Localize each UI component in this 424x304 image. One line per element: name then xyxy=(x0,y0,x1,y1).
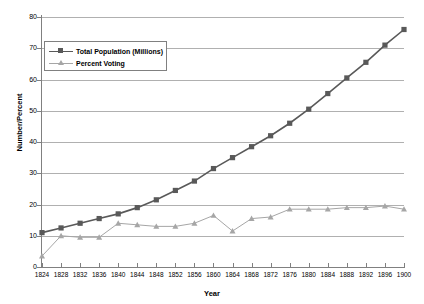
y-axis-title: Number/Percent xyxy=(15,78,24,168)
x-axis-tick-mark xyxy=(404,263,405,268)
x-axis-tick-mark xyxy=(309,263,310,268)
x-axis-tick-mark xyxy=(290,263,291,268)
legend-item-total-population: Total Population (Millions) xyxy=(49,45,162,57)
x-axis-tick-label: 1900 xyxy=(392,271,416,279)
x-axis-title: Year xyxy=(0,289,424,298)
x-axis-tick-labels: 1824182818321836184018441848185218561860… xyxy=(0,271,424,285)
x-axis-tick-mark xyxy=(385,263,386,268)
series-line xyxy=(42,206,404,256)
x-axis-tick-mark xyxy=(118,263,119,268)
data-point-marker-square xyxy=(382,43,387,48)
x-axis-tick-mark xyxy=(137,263,138,268)
x-axis-tick-mark xyxy=(347,263,348,268)
data-point-marker-square xyxy=(78,221,83,226)
data-point-marker-square xyxy=(97,216,102,221)
triangle-marker-icon xyxy=(58,60,64,65)
data-point-marker-triangle xyxy=(210,212,216,217)
data-point-marker-square xyxy=(173,188,178,193)
data-point-marker-square xyxy=(230,155,235,160)
x-axis-tick-mark xyxy=(213,263,214,268)
chart-container: 01020304050607080 1824182818321836184018… xyxy=(0,0,424,304)
x-axis-tick-mark xyxy=(194,263,195,268)
data-point-marker-square xyxy=(363,60,368,65)
x-axis-tick-mark xyxy=(252,263,253,268)
data-point-marker-square xyxy=(58,225,63,230)
chart-legend: Total Population (Millions) Percent Voti… xyxy=(44,41,167,71)
x-axis-tick-mark xyxy=(271,263,272,268)
data-point-marker-triangle xyxy=(191,220,197,225)
legend-item-percent-voting: Percent Voting xyxy=(49,57,162,69)
x-axis-tick-mark xyxy=(233,263,234,268)
x-axis-tick-mark xyxy=(99,263,100,268)
x-axis-tick-mark xyxy=(366,263,367,268)
x-axis-tick-mark xyxy=(175,263,176,268)
x-axis-tick-mark xyxy=(80,263,81,268)
data-point-marker-square xyxy=(268,133,273,138)
legend-swatch-percent-voting xyxy=(49,58,73,68)
x-axis-tick-mark xyxy=(42,263,43,268)
legend-swatch-total-population xyxy=(49,46,73,56)
data-point-marker-square xyxy=(401,27,406,32)
data-point-marker-square xyxy=(39,230,44,235)
data-point-marker-square xyxy=(306,107,311,112)
data-point-marker-square xyxy=(325,91,330,96)
data-point-marker-square xyxy=(154,197,159,202)
data-point-marker-square xyxy=(192,178,197,183)
data-point-marker-square xyxy=(249,144,254,149)
legend-label-percent-voting: Percent Voting xyxy=(76,59,125,68)
square-marker-icon xyxy=(58,48,63,53)
x-axis-tick-mark xyxy=(61,263,62,268)
data-point-marker-square xyxy=(344,75,349,80)
x-axis-tick-mark xyxy=(328,263,329,268)
data-point-marker-square xyxy=(287,121,292,126)
data-point-marker-square xyxy=(135,205,140,210)
legend-label-total-population: Total Population (Millions) xyxy=(76,47,163,56)
data-point-marker-square xyxy=(116,211,121,216)
data-point-marker-square xyxy=(211,166,216,171)
x-axis-tick-mark xyxy=(156,263,157,268)
